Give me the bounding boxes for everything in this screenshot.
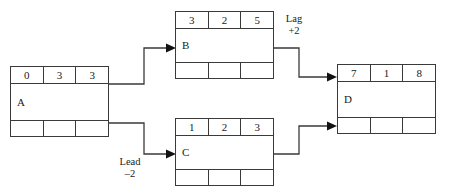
node-b-top-row: 3 2 5 xyxy=(176,12,273,29)
node-d-label: D xyxy=(344,94,352,105)
node-d[interactable]: 7 1 8 D xyxy=(337,64,436,134)
node-c[interactable]: 1 2 3 C xyxy=(175,118,274,186)
connector-a-to-b xyxy=(109,44,176,85)
node-d-bottom-row xyxy=(338,117,435,133)
node-b-top-cell-1: 3 xyxy=(176,12,208,28)
node-a-top-cell-3: 3 xyxy=(75,67,108,83)
node-d-top-cell-2: 1 xyxy=(370,65,403,81)
node-b-bottom-cell-2 xyxy=(208,63,241,78)
node-b-bottom-cell-3 xyxy=(240,63,273,78)
node-a-bottom-cell-1 xyxy=(11,121,43,136)
node-c-top-cell-3: 3 xyxy=(240,119,273,135)
node-a-top-row: 0 3 3 xyxy=(11,67,108,84)
node-d-top-cell-1: 7 xyxy=(338,65,370,81)
node-c-bottom-cell-3 xyxy=(240,170,273,185)
node-a-label-row: A xyxy=(11,84,108,120)
connector-b-to-d xyxy=(273,48,337,82)
connector-a-to-c xyxy=(109,123,176,159)
node-a[interactable]: 0 3 3 A xyxy=(10,66,109,137)
node-d-top-row: 7 1 8 xyxy=(338,65,435,82)
node-c-bottom-row xyxy=(176,169,273,185)
node-a-top-cell-2: 3 xyxy=(43,67,76,83)
node-c-bottom-cell-1 xyxy=(176,170,208,185)
node-b[interactable]: 3 2 5 B xyxy=(175,11,274,79)
node-b-label-row: B xyxy=(176,29,273,62)
node-d-bottom-cell-2 xyxy=(370,118,403,133)
node-d-bottom-cell-3 xyxy=(402,118,435,133)
node-b-bottom-row xyxy=(176,62,273,78)
arrowhead-into-d-top xyxy=(327,73,337,82)
node-c-label: C xyxy=(182,147,189,158)
node-b-bottom-cell-1 xyxy=(176,63,208,78)
arrowhead-into-d-bottom xyxy=(327,122,337,131)
node-c-label-row: C xyxy=(176,136,273,169)
node-a-bottom-cell-2 xyxy=(43,121,76,136)
node-b-label: B xyxy=(182,40,189,51)
node-c-top-row: 1 2 3 xyxy=(176,119,273,136)
node-d-top-cell-3: 8 xyxy=(402,65,435,81)
lag-label: Lag +2 xyxy=(277,13,311,37)
node-a-bottom-cell-3 xyxy=(75,121,108,136)
connector-c-to-d xyxy=(273,122,337,155)
node-d-bottom-cell-1 xyxy=(338,118,370,133)
node-c-top-cell-1: 1 xyxy=(176,119,208,135)
node-a-bottom-row xyxy=(11,120,108,136)
node-b-top-cell-2: 2 xyxy=(208,12,241,28)
node-c-top-cell-2: 2 xyxy=(208,119,241,135)
node-c-bottom-cell-2 xyxy=(208,170,241,185)
node-b-top-cell-3: 5 xyxy=(240,12,273,28)
node-d-label-row: D xyxy=(338,82,435,117)
lead-label: Lead –2 xyxy=(110,156,150,180)
precedence-diagram: 0 3 3 A 3 2 5 B 1 2 xyxy=(0,0,450,192)
node-a-label: A xyxy=(17,97,25,108)
node-a-top-cell-1: 0 xyxy=(11,67,43,83)
